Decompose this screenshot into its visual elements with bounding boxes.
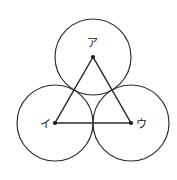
vertex-dot-a [91, 55, 95, 59]
diagram-canvas: ア イ ウ [0, 0, 177, 180]
vertex-dot-i [53, 121, 57, 125]
vertex-dot-u [129, 121, 133, 125]
label-circle-i: イ [40, 119, 51, 130]
three-circles-figure [0, 0, 177, 180]
label-circle-a: ア [87, 38, 98, 49]
centre-triangle [55, 57, 131, 123]
label-circle-u: ウ [136, 119, 147, 130]
